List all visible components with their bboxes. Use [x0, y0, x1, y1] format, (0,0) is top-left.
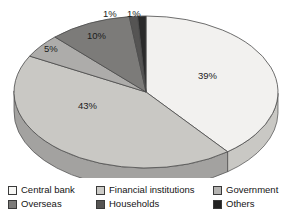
legend-label: Others	[226, 199, 255, 209]
pie-plot-area: 39% 43% 5% 10% 1% 1%	[0, 0, 287, 178]
legend-item-households[interactable]: Households	[96, 197, 159, 211]
legend-label: Overseas	[21, 199, 62, 209]
legend-item-central-bank[interactable]: Central bank	[8, 183, 75, 197]
legend-swatch-icon	[96, 200, 105, 209]
slice-label-financial-institutions: 43%	[78, 101, 97, 111]
pie-graphic	[0, 0, 287, 178]
legend-label: Central bank	[21, 185, 75, 195]
slice-label-households: 1%	[103, 9, 117, 19]
legend-label: Government	[226, 185, 278, 195]
legend-item-financial-institutions[interactable]: Financial institutions	[96, 183, 195, 197]
legend-swatch-icon	[96, 186, 105, 195]
legend-item-overseas[interactable]: Overseas	[8, 197, 62, 211]
slice-label-others: 1%	[127, 9, 141, 19]
slice-label-overseas: 10%	[87, 31, 106, 41]
slice-label-government: 5%	[44, 44, 58, 54]
pie-chart: 39% 43% 5% 10% 1% 1% Central bank Financ…	[0, 0, 287, 220]
legend-swatch-icon	[8, 200, 17, 209]
legend-label: Financial institutions	[109, 185, 195, 195]
legend-swatch-icon	[8, 186, 17, 195]
legend-row: Central bank Financial institutions Gove…	[8, 183, 287, 197]
legend-item-others[interactable]: Others	[213, 197, 255, 211]
legend-row: Overseas Households Others	[8, 197, 287, 211]
legend-swatch-icon	[213, 186, 222, 195]
legend-label: Households	[109, 199, 159, 209]
slice-label-central-bank: 39%	[198, 71, 217, 81]
legend-item-government[interactable]: Government	[213, 183, 278, 197]
chart-legend: Central bank Financial institutions Gove…	[8, 183, 287, 215]
legend-swatch-icon	[213, 200, 222, 209]
